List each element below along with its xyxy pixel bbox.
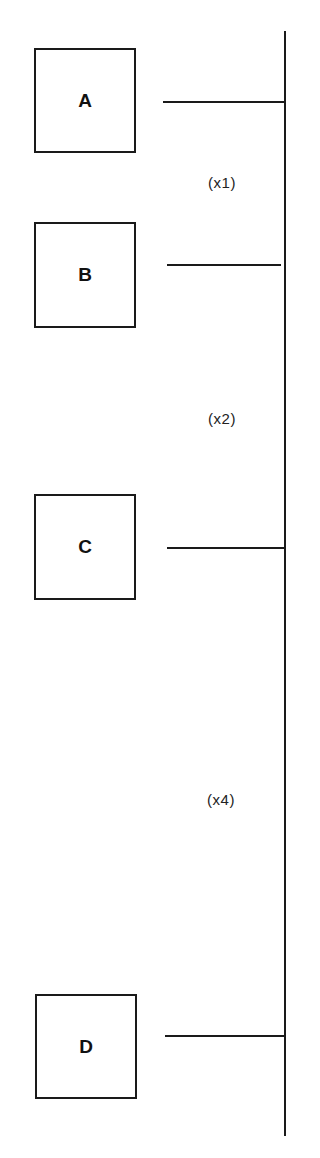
connector-line-c	[167, 547, 285, 549]
node-box-b: B	[34, 222, 136, 328]
connector-line-d	[165, 1035, 285, 1037]
node-box-c: C	[34, 494, 136, 600]
spacing-label-ab: (x1)	[208, 174, 236, 191]
node-label-c: C	[78, 536, 92, 558]
vertical-bus-line	[284, 31, 286, 1136]
node-label-a: A	[78, 90, 92, 112]
node-box-d: D	[35, 994, 137, 1099]
node-label-b: B	[78, 264, 92, 286]
connector-line-a	[163, 101, 285, 103]
connector-line-b	[167, 264, 281, 266]
spacing-label-cd: (x4)	[207, 791, 235, 808]
node-box-a: A	[34, 48, 136, 153]
spacing-label-bc: (x2)	[208, 410, 236, 427]
node-label-d: D	[79, 1036, 93, 1058]
